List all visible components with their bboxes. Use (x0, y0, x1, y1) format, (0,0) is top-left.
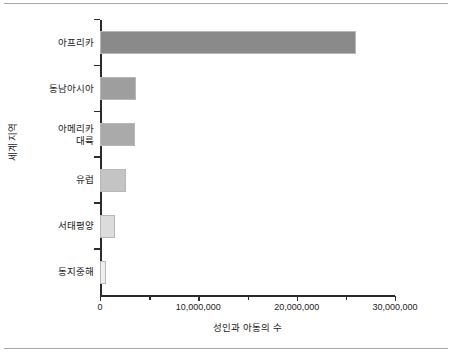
bar-row (100, 157, 395, 203)
x-tick-minor (149, 296, 150, 300)
x-tick-minor (248, 296, 249, 300)
y-tick (94, 156, 100, 157)
y-axis-title: 세계 지역 (5, 82, 19, 202)
bar-western-pacific (100, 215, 115, 238)
category-label: 서태평양 (24, 203, 94, 249)
bar-row (100, 203, 395, 249)
x-tick-major (395, 296, 396, 301)
category-label: 동남아시아 (24, 66, 94, 112)
x-tick-label: 20,000,000 (274, 302, 319, 312)
bar-eastern-mediterranean (100, 261, 106, 284)
category-labels: 아프리카 동남아시아 아메리카 대륙 유럽 서태평양 동지중해 (24, 20, 94, 295)
x-tick-label: 0 (97, 302, 102, 312)
chart-figure: 아프리카 동남아시아 아메리카 대륙 유럽 서태평양 동지중해 (0, 0, 452, 358)
category-label: 유럽 (24, 157, 94, 203)
bar-europe (100, 169, 126, 192)
category-label: 동지중해 (24, 249, 94, 295)
bar-row (100, 249, 395, 295)
category-label: 아프리카 (24, 20, 94, 66)
x-axis-tick-labels: 010,000,00020,000,00030,000,000 (0, 302, 452, 318)
bar-africa (100, 31, 356, 54)
x-axis-title: 성인과 아동의 수 (100, 320, 395, 334)
figure-bottom-rule (4, 348, 448, 349)
x-tick-major (297, 296, 298, 301)
x-tick-label: 30,000,000 (372, 302, 417, 312)
bar-south-east-asia (100, 77, 136, 100)
bar-americas (100, 123, 135, 146)
y-tick (94, 111, 100, 112)
y-tick (94, 19, 100, 20)
x-tick-major (198, 296, 199, 301)
bar-row (100, 20, 395, 66)
y-tick (94, 65, 100, 66)
bar-row (100, 112, 395, 158)
x-tick-label: 10,000,000 (176, 302, 221, 312)
x-tick-minor (346, 296, 347, 300)
y-tick (94, 202, 100, 203)
bar-series (100, 20, 395, 295)
category-label: 아메리카 대륙 (24, 112, 94, 158)
x-tick-major (100, 296, 101, 301)
y-tick (94, 248, 100, 249)
figure-top-rule (4, 3, 448, 4)
bar-row (100, 66, 395, 112)
